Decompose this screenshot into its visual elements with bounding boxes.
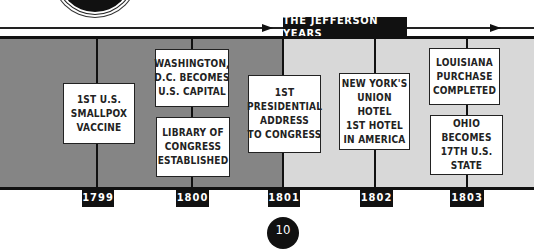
year-label-1802: 1802 — [360, 188, 393, 207]
event-union-hotel: NEW YORK'S UNION HOTEL 1ST HOTEL IN AMER… — [339, 73, 410, 150]
year-label-1801: 1801 — [268, 188, 300, 207]
era-label: THE JEFFERSON YEARS — [283, 17, 407, 37]
event-ohio-statehood: OHIO BECOMES 17TH U.S. STATE — [430, 115, 503, 175]
event-library-of-congress: LIBRARY OF CONGRESS ESTABLISHED — [156, 117, 230, 177]
pre-jefferson-band — [0, 37, 283, 188]
event-presidential-address: 1ST PRESIDENTIAL ADDRESS TO CONGRESS — [248, 75, 321, 153]
decorative-circle-emblem — [58, 0, 132, 12]
timeline-top-line — [0, 36, 534, 39]
event-washington-capital: WASHINGTON, D.C. BECOMES U.S. CAPITAL — [155, 49, 229, 107]
event-louisiana-purchase: LOUISIANA PURCHASE COMPLETED — [429, 48, 500, 105]
year-label-1799: 1799 — [82, 188, 114, 207]
arrowhead-icon — [490, 24, 501, 32]
event-smallpox-vaccine: 1ST U.S. SMALLPOX VACCINE — [63, 83, 135, 144]
year-label-1803: 1803 — [450, 188, 484, 207]
arrowhead-icon — [262, 24, 273, 32]
year-label-1800: 1800 — [176, 188, 209, 207]
page-number: 10 — [267, 217, 299, 249]
